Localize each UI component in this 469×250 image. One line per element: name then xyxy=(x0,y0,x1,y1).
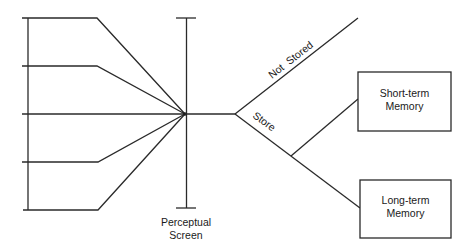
input-channel-2 xyxy=(22,66,185,114)
memory-model-diagram: Perceptual Screen Not Stored Store Short… xyxy=(0,0,469,250)
not-stored-line xyxy=(235,18,358,114)
short-term-branch-line xyxy=(291,99,358,156)
not-stored-label: Not Stored xyxy=(266,38,315,80)
store-branch: Store xyxy=(235,99,360,208)
long-term-memory-box: Long-term Memory xyxy=(360,180,451,238)
short-term-memory-box: Short-term Memory xyxy=(358,72,451,131)
short-term-label-2: Memory xyxy=(386,100,425,112)
long-term-label-2: Memory xyxy=(387,207,426,219)
perceptual-screen-label-2: Screen xyxy=(169,229,202,241)
long-term-label-1: Long-term xyxy=(382,194,430,206)
input-channels xyxy=(22,18,185,210)
perceptual-screen: Perceptual Screen xyxy=(161,18,211,241)
store-line xyxy=(235,114,360,208)
perceptual-screen-label-1: Perceptual xyxy=(161,216,211,228)
short-term-label-1: Short-term xyxy=(380,87,430,99)
not-stored-branch: Not Stored xyxy=(235,18,358,114)
input-channel-4 xyxy=(22,114,185,162)
